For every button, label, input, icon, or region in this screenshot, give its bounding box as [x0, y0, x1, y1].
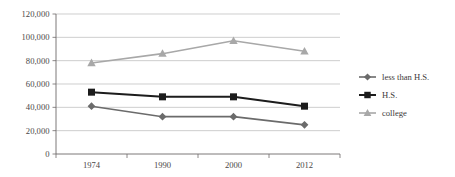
data-point-marker-square — [159, 93, 166, 100]
data-point-marker-square — [301, 103, 308, 110]
x-axis-tick-label: 2000 — [225, 160, 242, 170]
legend: less than H.S.H.S.college — [359, 72, 429, 118]
series-lines-group — [92, 41, 305, 125]
x-axis-tickmarks — [56, 154, 340, 158]
series-line — [92, 41, 305, 63]
y-axis-tick-label: 80,000 — [26, 56, 50, 66]
series-line — [92, 92, 305, 106]
x-axis-tick-labels: 1974199020002012 — [83, 160, 313, 170]
x-axis-tick-label: 1974 — [83, 160, 101, 170]
data-point-marker-square — [230, 93, 237, 100]
gridlines-group — [56, 14, 340, 131]
line-chart-figure: 020,00040,00060,00080,000100,000120,000 … — [0, 0, 455, 177]
data-point-marker-diamond — [159, 113, 167, 121]
y-axis-tickmarks — [53, 14, 57, 154]
y-axis-tick-label: 100,000 — [22, 32, 50, 42]
y-axis-tick-label: 20,000 — [26, 126, 50, 136]
data-point-marker-diamond — [88, 102, 96, 110]
series-line — [92, 106, 305, 125]
y-axis-tick-label: 0 — [45, 149, 49, 159]
data-point-marker-diamond — [230, 113, 238, 121]
legend-label: less than H.S. — [382, 72, 429, 82]
data-point-marker-diamond — [364, 73, 371, 80]
y-axis-tick-label: 40,000 — [26, 102, 50, 112]
data-point-marker-square — [88, 89, 95, 96]
y-axis-tick-label: 120,000 — [22, 9, 50, 19]
data-point-marker-square — [364, 92, 370, 98]
x-axis-tick-label: 1990 — [154, 160, 171, 170]
series-markers-group — [87, 36, 308, 128]
chart-canvas: 020,00040,00060,00080,000100,000120,000 … — [0, 0, 455, 177]
x-axis-tick-label: 2012 — [296, 160, 313, 170]
legend-label: college — [382, 108, 407, 118]
y-axis-tick-labels: 020,00040,00060,00080,000100,000120,000 — [22, 9, 50, 159]
y-axis-tick-label: 60,000 — [26, 79, 50, 89]
data-point-marker-diamond — [301, 121, 309, 129]
legend-label: H.S. — [382, 90, 397, 100]
